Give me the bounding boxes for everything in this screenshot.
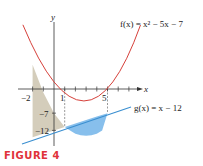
right-shaded-region: [65, 113, 108, 136]
figure-4-graph: y x f(x) = x² − 5x − 7 g(x) = x − 12 −2 …: [0, 0, 203, 166]
f-function-label: f(x) = x² − 5x − 7: [120, 19, 183, 29]
tick-label-neg2: −2: [21, 93, 31, 103]
tick-label-5: 5: [102, 93, 107, 103]
g-function-label: g(x) = x − 12: [134, 103, 182, 113]
tick-label-neg7: −7: [39, 109, 49, 119]
tick-label-1: 1: [60, 93, 65, 103]
x-axis-label: x: [143, 84, 148, 94]
tick-label-neg12: −12: [35, 126, 49, 136]
y-axis-label: y: [50, 12, 55, 22]
x-axis-arrow-icon: [137, 87, 143, 91]
figure-caption: FIGURE 4: [4, 150, 60, 161]
